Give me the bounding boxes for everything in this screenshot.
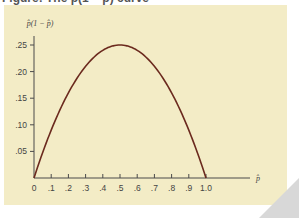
y-tick-label: .10 — [15, 120, 27, 130]
y-tick-label: .05 — [15, 146, 27, 156]
y-tick-label: .15 — [15, 93, 27, 103]
x-tick-label: 1.0 — [200, 183, 212, 193]
x-tick-label: .7 — [151, 183, 158, 193]
x-tick-label: .5 — [116, 183, 123, 193]
x-tick-label: 0 — [32, 183, 37, 193]
line-chart: 0.1.2.3.4.5.6.7.8.91.0.05.10.15.20.25p̂(… — [0, 0, 299, 218]
y-tick-label: .25 — [15, 40, 27, 50]
y-axis-title: p̂(1 − p̂) — [26, 19, 54, 28]
x-tick-label: .2 — [65, 183, 72, 193]
page-curl — [259, 178, 299, 218]
x-tick-label: .1 — [48, 183, 55, 193]
curve-series — [34, 45, 206, 178]
x-tick-label: .3 — [82, 183, 89, 193]
x-axis-title: p̂ — [255, 174, 260, 183]
x-tick-label: .6 — [134, 183, 141, 193]
x-tick-label: .4 — [99, 183, 106, 193]
x-tick-label: .8 — [168, 183, 175, 193]
axis-labels: 0.1.2.3.4.5.6.7.8.91.0.05.10.15.20.25p̂(… — [15, 19, 260, 193]
x-tick-label: .9 — [185, 183, 192, 193]
chart-axes — [30, 36, 250, 178]
y-tick-label: .20 — [15, 67, 27, 77]
